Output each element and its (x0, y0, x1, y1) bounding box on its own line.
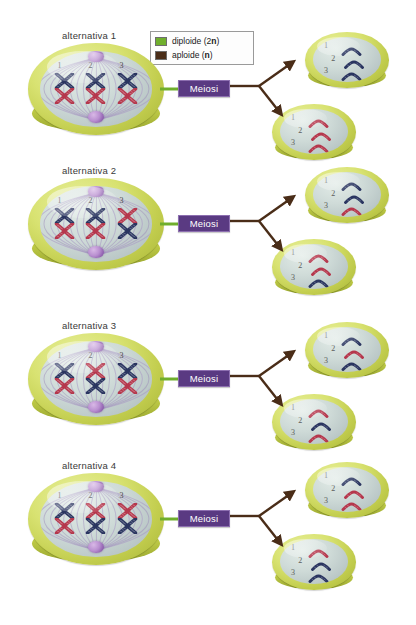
meiosis-diagram: diploide (2n) aploide (n) alternativa 11… (0, 0, 416, 625)
chromosome-number-3: 3 (291, 273, 295, 282)
chromosome-x-shape (112, 88, 143, 104)
alternative-label-2: alternativa 2 (62, 165, 116, 176)
chromosome-v-shape (336, 362, 367, 371)
meiosi-process-box-1: Meiosi (178, 80, 230, 97)
cytoplasm: 123 (40, 341, 153, 417)
chromosome-number-2: 2 (331, 344, 335, 353)
cytoplasm: 123 (40, 481, 153, 557)
chromosome-number-3: 3 (120, 351, 124, 360)
chromosome-x-shape (80, 73, 111, 89)
cytoplasm: 123 (40, 186, 153, 262)
chromosome-number-1: 1 (324, 471, 328, 480)
meiosi-process-box-2: Meiosi (178, 215, 230, 232)
chromosome-v-shape (303, 279, 334, 288)
chromosome-number-1: 1 (324, 41, 328, 50)
chromosome-1-bottom (49, 518, 80, 538)
chromosome-x-shape (112, 363, 143, 379)
chromosome-3 (303, 274, 334, 288)
chromosome-3 (303, 139, 334, 153)
chromosome-number-1: 1 (291, 543, 295, 552)
chromosome-v-shape (336, 502, 367, 511)
chromosome-2-bottom (80, 223, 111, 243)
cytoplasm: 123 (313, 327, 382, 372)
alternative-label-3: alternativa 3 (62, 320, 116, 331)
chromosome-3-bottom (112, 518, 143, 538)
chromosome-x-shape (49, 88, 80, 104)
haploid-label: aploide (n) (172, 50, 213, 60)
chromosome-x-shape (80, 518, 111, 534)
chromosome-number-2: 2 (89, 491, 93, 500)
chromosome-v-shape (336, 207, 367, 216)
chromosome-3-bottom (112, 88, 143, 108)
diploid-label: diploide (2n) (172, 36, 219, 46)
cytoplasm: 123 (280, 244, 349, 289)
parent-cell-diploid: 123 (28, 43, 164, 147)
chromosome-3-bottom (112, 223, 143, 243)
chromosome-3 (336, 357, 367, 371)
chromosome-v-shape (303, 574, 334, 583)
meiosi-process-box-3: Meiosi (178, 370, 230, 387)
cytoplasm: 123 (313, 467, 382, 512)
chromosome-x-shape (80, 223, 111, 239)
chromosome-x-shape (80, 363, 111, 379)
chromosome-number-2: 2 (298, 556, 302, 565)
cytoplasm: 123 (313, 172, 382, 217)
chromosome-x-shape (80, 503, 111, 519)
chromosome-x-shape (49, 518, 80, 534)
chromosome-v-shape (336, 72, 367, 81)
centrosome-bottom (88, 111, 103, 123)
daughter-cell-top-haploid-2: 123 (305, 167, 389, 231)
chromosome-2-bottom (80, 88, 111, 108)
chromosome-2-bottom (80, 518, 111, 538)
parent-cell-diploid: 123 (28, 178, 164, 282)
chromosome-x-shape (112, 378, 143, 394)
chromosome-number-2: 2 (89, 61, 93, 70)
chromosome-3 (336, 202, 367, 216)
chromosome-number-2: 2 (331, 54, 335, 63)
chromosome-number-1: 1 (291, 403, 295, 412)
chromosome-number-1: 1 (291, 248, 295, 257)
chromosome-number-1: 1 (324, 331, 328, 340)
parent-cell-diploid: 123 (28, 333, 164, 437)
cytoplasm: 123 (313, 37, 382, 82)
chromosome-3 (303, 569, 334, 583)
chromosome-2-bottom (80, 378, 111, 398)
centrosome-bottom (88, 246, 103, 258)
chromosome-number-3: 3 (120, 61, 124, 70)
chromosome-x-shape (49, 73, 80, 89)
cytoplasm: 123 (280, 399, 349, 444)
chromosome-number-1: 1 (57, 61, 61, 70)
chromosome-number-1: 1 (57, 351, 61, 360)
chromosome-3 (336, 497, 367, 511)
chromosome-number-2: 2 (89, 351, 93, 360)
chromosome-1-bottom (49, 378, 80, 398)
chromosome-number-1: 1 (57, 491, 61, 500)
chromosome-number-2: 2 (89, 196, 93, 205)
chromosome-x-shape (112, 223, 143, 239)
chromosome-number-2: 2 (331, 484, 335, 493)
chromosome-number-1: 1 (57, 196, 61, 205)
chromosome-3 (336, 67, 367, 81)
chromosome-x-shape (112, 208, 143, 224)
chromosome-number-3: 3 (291, 568, 295, 577)
chromosome-number-1: 1 (291, 113, 295, 122)
chromosome-number-3: 3 (324, 356, 328, 365)
chromosome-x-shape (49, 503, 80, 519)
chromosome-3-bottom (112, 378, 143, 398)
chromosome-x-shape (112, 73, 143, 89)
chromosome-number-2: 2 (298, 261, 302, 270)
chromosome-x-shape (80, 88, 111, 104)
alternative-label-1: alternativa 1 (62, 30, 116, 41)
chromosome-number-1: 1 (324, 176, 328, 185)
chromosome-number-3: 3 (291, 428, 295, 437)
chromosome-number-3: 3 (324, 496, 328, 505)
chromosome-number-2: 2 (298, 416, 302, 425)
cytoplasm: 123 (280, 539, 349, 584)
chromosome-number-3: 3 (324, 201, 328, 210)
legend-row-diploid: diploide (2n) (155, 35, 249, 47)
chromosome-v-shape (303, 434, 334, 443)
chromosome-x-shape (112, 503, 143, 519)
chromosome-number-2: 2 (331, 189, 335, 198)
chromosome-v-shape (303, 144, 334, 153)
chromosome-x-shape (80, 378, 111, 394)
